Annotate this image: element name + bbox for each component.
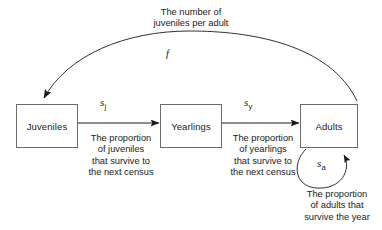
param-symbol-f: f bbox=[166, 48, 169, 59]
edge-label-survival-juveniles: sj bbox=[100, 96, 106, 108]
param-subscript-sy: y bbox=[249, 102, 253, 111]
param-subscript-sa: a bbox=[322, 163, 326, 172]
arc-adults-to-juveniles bbox=[44, 31, 357, 101]
edge-label-survival-yearlings: sy bbox=[244, 96, 252, 108]
caption-survival-yearlings: The proportion of yearlings that survive… bbox=[216, 133, 310, 179]
node-yearlings-label: Yearlings bbox=[171, 121, 211, 132]
node-yearlings[interactable]: Yearlings bbox=[160, 104, 222, 148]
node-juveniles[interactable]: Juveniles bbox=[16, 104, 78, 148]
caption-fecundity: The number of juveniles per adult bbox=[124, 7, 258, 30]
param-symbol-sa: s bbox=[317, 157, 321, 169]
edge-label-survival-adults: sa bbox=[317, 157, 326, 169]
param-symbol-sy: s bbox=[244, 96, 248, 108]
node-juveniles-label: Juveniles bbox=[27, 121, 68, 132]
diagram-canvas: Juveniles Yearlings Adults sj sy sa f Th… bbox=[0, 0, 382, 230]
edge-label-fecundity: f bbox=[166, 48, 169, 59]
caption-survival-adults: The proportion of adults that survive th… bbox=[292, 189, 382, 223]
node-adults-label: Adults bbox=[315, 121, 342, 132]
caption-survival-juveniles: The proportion of juveniles that survive… bbox=[74, 133, 168, 179]
param-symbol-sj: s bbox=[100, 96, 104, 108]
